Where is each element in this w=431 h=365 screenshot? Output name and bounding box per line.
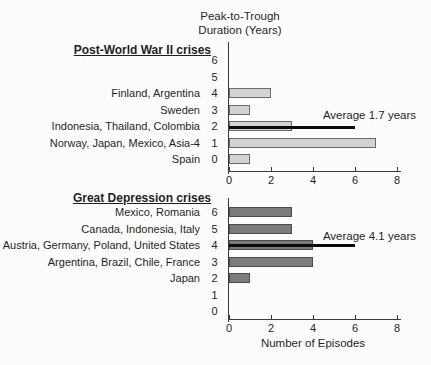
plot-area [229,69,397,86]
x-tick-mark [271,315,272,319]
category-label: Japan [0,272,200,284]
chart-row: Mexico, Romania 6 [0,204,431,221]
average-line-depression [229,244,355,247]
chart-row: Japan 2 [0,270,431,287]
chart-row: 1 [0,287,431,304]
chart-row: Norway, Japan, Mexico, Asia-4 1 [0,135,431,152]
x-tick-label: 0 [226,174,232,186]
chart-row: 6 [0,52,431,69]
plot-area [229,135,397,152]
duration-tick-label: 4 [200,239,229,251]
duration-tick-label: 2 [200,120,229,132]
plot-area [229,270,397,287]
duration-bar-chart-figure: Peak-to-Trough Duration (Years) Post-Wor… [0,0,431,365]
x-tick-mark [355,315,356,319]
x-axis-tick-labels-depression: 0 2 4 6 8 [229,322,397,334]
duration-tick-label: 5 [200,71,229,83]
average-line-postwar [229,126,355,129]
x-tick-mark [397,315,398,319]
x-tick-label: 0 [226,322,232,334]
chart-row: Finland, Argentina 4 [0,85,431,102]
chart-row: Argentina, Brazil, Chile, France 3 [0,254,431,271]
x-tick-label: 4 [310,322,316,334]
episode-bar [229,257,313,267]
category-label: Indonesia, Thailand, Colombia [0,120,200,132]
chart-row: Spain 0 [0,151,431,168]
plot-area [229,204,397,221]
category-label: Spain [0,153,200,165]
x-axis-postwar [228,171,401,172]
plot-area [229,287,397,304]
episode-bar [229,273,250,283]
episode-bar [229,207,292,217]
section-heading-depression: Great Depression crises [0,191,211,205]
x-tick-mark [313,315,314,319]
duration-tick-label: 6 [200,54,229,66]
x-tick-label: 2 [268,322,274,334]
y-axis-title-line1: Peak-to-Trough [170,9,310,23]
duration-tick-label: 1 [200,137,229,149]
x-tick-mark [313,167,314,171]
category-label: Argentina, Brazil, Chile, France [0,256,200,268]
duration-tick-label: 2 [200,272,229,284]
duration-tick-label: 5 [200,223,229,235]
duration-tick-label: 3 [200,104,229,116]
category-label: Sweden [0,104,200,116]
x-tick-label: 8 [394,174,400,186]
x-tick-mark [229,167,230,171]
duration-tick-label: 3 [200,256,229,268]
category-label: Canada, Indonesia, Italy [0,223,200,235]
x-tick-label: 2 [268,174,274,186]
x-tick-label: 4 [310,174,316,186]
y-axis-title-line2: Duration (Years) [170,23,310,37]
y-axis-title: Peak-to-Trough Duration (Years) [170,9,310,37]
episode-bar [229,154,250,164]
duration-tick-label: 0 [200,305,229,317]
duration-tick-label: 6 [200,206,229,218]
plot-area [229,85,397,102]
category-label: Norway, Japan, Mexico, Asia-4 [0,137,200,149]
plot-area [229,254,397,271]
x-tick-label: 6 [352,322,358,334]
chart-depression: Mexico, Romania 6 Canada, Indonesia, Ita… [0,204,431,320]
x-tick-mark [397,167,398,171]
episode-bar [229,105,250,115]
category-label: Mexico, Romania [0,206,200,218]
plot-area [229,52,397,69]
x-axis-tick-labels-postwar: 0 2 4 6 8 [229,174,397,186]
x-tick-mark [355,167,356,171]
episode-bar [229,88,271,98]
x-axis-depression [228,319,401,320]
episode-bar [229,224,292,234]
chart-row: 0 [0,303,431,320]
x-tick-mark [229,315,230,319]
duration-tick-label: 4 [200,87,229,99]
episode-bar [229,138,376,148]
chart-row: 5 [0,69,431,86]
x-tick-label: 8 [394,322,400,334]
average-annotation-depression: Average 4.1 years [323,230,416,242]
plot-area [229,151,397,168]
category-label: Austria, Germany, Poland, United States [0,239,200,251]
average-annotation-postwar: Average 1.7 years [323,109,416,121]
category-label: Finland, Argentina [0,87,200,99]
duration-tick-label: 0 [200,153,229,165]
x-axis-title: Number of Episodes [229,337,397,349]
x-tick-label: 6 [352,174,358,186]
duration-tick-label: 1 [200,289,229,301]
x-tick-mark [271,167,272,171]
